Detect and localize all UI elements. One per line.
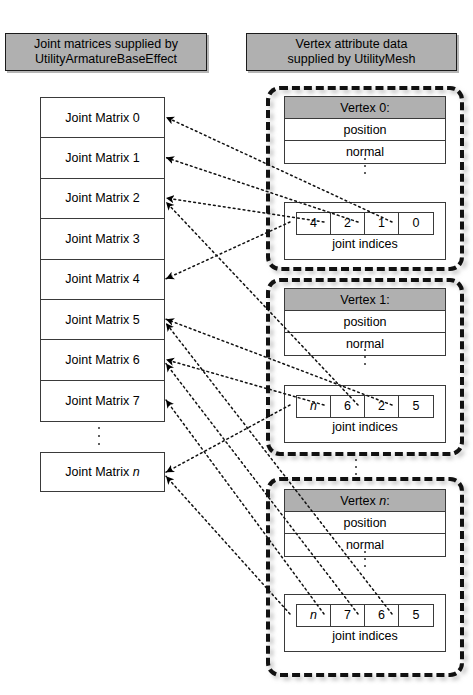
header-vertex-attributes-text: Vertex attribute datasupplied by Utility… (288, 37, 416, 67)
vertex-0-attribute-position: position (285, 119, 445, 141)
vertex-n-attribute-position: position (285, 512, 445, 534)
vertex-0-attribute-table: Vertex 0:positionnormal (284, 96, 446, 164)
joint-matrix-1-label: Joint Matrix 1 (65, 151, 139, 165)
vertex-0-joint-indices-cells: 4210 (296, 212, 434, 235)
joint-matrix-5-label: Joint Matrix 5 (65, 313, 139, 327)
joint-matrix-1: Joint Matrix 1 (41, 138, 164, 178)
vertex-gap-ellipsis (353, 459, 359, 475)
vertex-0-attribute-normal-label: normal (346, 145, 384, 159)
joint-matrix-3: Joint Matrix 3 (41, 219, 164, 259)
vertex-1-joint-indices-cells: n625 (296, 395, 434, 418)
vertex-n-joint-indices-label: joint indices (332, 630, 397, 643)
vertex-n-joint-index-cell-3: 5 (399, 605, 433, 626)
joint-matrix-6-label: Joint Matrix 6 (65, 353, 139, 367)
vertex-n-joint-index-cell-0-value: n (310, 608, 317, 622)
joint-matrix-4-label: Joint Matrix 4 (65, 272, 139, 286)
vertex-1-joint-index-cell-0: n (297, 396, 331, 417)
vertex-1-attribute-position-label: position (343, 315, 386, 329)
joint-matrix-7-label: Joint Matrix 7 (65, 394, 139, 408)
vertex-1-title: Vertex 1: (285, 289, 445, 311)
vertex-0-joint-indices-label: joint indices (332, 238, 397, 251)
header-vertex-attributes: Vertex attribute datasupplied by Utility… (246, 33, 457, 71)
joint-matrix-2: Joint Matrix 2 (41, 179, 164, 219)
vertex-1-joint-index-cell-3: 5 (399, 396, 433, 417)
vertex-1-joint-indices-label: joint indices (332, 421, 397, 434)
vertex-0-attribute-ellipsis (362, 158, 368, 174)
joint-matrix-0-label: Joint Matrix 0 (65, 111, 139, 125)
joint-matrix-0: Joint Matrix 0 (41, 98, 164, 138)
vertex-1-attribute-position: position (285, 311, 445, 333)
joint-matrix-3-label: Joint Matrix 3 (65, 232, 139, 246)
vertex-0-joint-index-cell-0: 4 (297, 213, 331, 234)
vertex-0-joint-index-cell-2: 1 (365, 213, 399, 234)
vertex-1-joint-indices: n625joint indices (284, 385, 446, 443)
vertex-0-joint-index-cell-3: 0 (399, 213, 433, 234)
diagram-canvas: Joint matrices supplied byUtilityArmatur… (0, 0, 473, 695)
vertex-n-attribute-ellipsis (362, 551, 368, 567)
vertex-0-title: Vertex 0: (285, 97, 445, 119)
vertex-n-attribute-normal-label: normal (346, 538, 384, 552)
vertex-0-joint-index-cell-1: 2 (331, 213, 365, 234)
vertex-0-title-label: Vertex 0: (340, 101, 389, 115)
vertex-0-attribute-position-label: position (343, 123, 386, 137)
header-joint-matrices: Joint matrices supplied byUtilityArmatur… (5, 33, 207, 71)
vertex-n-title: Vertex n: (285, 490, 445, 512)
header-joint-matrices-text: Joint matrices supplied byUtilityArmatur… (34, 37, 178, 67)
vertex-1-joint-index-cell-2: 2 (365, 396, 399, 417)
vertex-n-joint-index-cell-0: n (297, 605, 331, 626)
vertex-1-joint-index-cell-1: 6 (331, 396, 365, 417)
vertex-0-joint-indices: 4210joint indices (284, 202, 446, 260)
vertex-n-title-label: Vertex n: (340, 494, 389, 508)
vertex-1-joint-index-cell-0-value: n (310, 399, 317, 413)
vertex-n-attribute-position-label: position (343, 516, 386, 530)
joint-matrix-4: Joint Matrix 4 (41, 260, 164, 300)
vertex-n-joint-index-cell-1: 7 (331, 605, 365, 626)
vertex-1-attribute-ellipsis (362, 349, 368, 365)
joint-matrix-n: Joint Matrix n (40, 452, 165, 492)
joint-matrix-2-label: Joint Matrix 2 (65, 191, 139, 205)
vertex-1-attribute-table: Vertex 1:positionnormal (284, 288, 446, 356)
joint-matrix-7: Joint Matrix 7 (41, 381, 164, 421)
joint-matrix-ellipsis (96, 427, 102, 445)
vertex-n-joint-indices-cells: n765 (296, 604, 434, 627)
joint-matrix-stack: Joint Matrix 0Joint Matrix 1Joint Matrix… (40, 97, 165, 422)
vertex-n-joint-indices: n765joint indices (284, 594, 446, 652)
joint-matrix-5: Joint Matrix 5 (41, 300, 164, 340)
vertex-1-title-label: Vertex 1: (340, 293, 389, 307)
joint-matrix-6: Joint Matrix 6 (41, 340, 164, 380)
joint-matrix-n-label: Joint Matrix n (65, 465, 139, 479)
vertex-n-attribute-table: Vertex n:positionnormal (284, 489, 446, 557)
vertex-n-joint-index-cell-2: 6 (365, 605, 399, 626)
